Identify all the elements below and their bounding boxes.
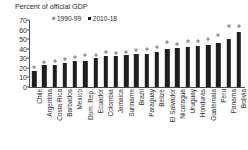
chart-column xyxy=(234,20,244,87)
point-1990-99 xyxy=(83,53,88,58)
chart-column xyxy=(152,20,162,87)
bar-2010-18 xyxy=(124,55,128,87)
x-axis-category-label: Jamaica xyxy=(118,89,125,113)
x-axis-category-label: El Salvador xyxy=(170,89,177,122)
chart-column xyxy=(60,20,70,87)
chart-column xyxy=(224,20,234,87)
bar-2010-18 xyxy=(206,45,210,87)
bar-2010-18 xyxy=(83,61,87,87)
plot-area: 010203040506070 xyxy=(29,20,244,87)
chart-column xyxy=(213,20,223,87)
chart-axis-title: Percent of official GDP xyxy=(15,2,88,11)
chart-column xyxy=(49,20,59,87)
x-axis-category-label: Ecuador xyxy=(98,89,105,113)
chart-column xyxy=(203,20,213,87)
bar-2010-18 xyxy=(114,56,118,87)
x-axis-category-label: Argentina xyxy=(47,89,54,117)
x-axis-category-label: Uruguay xyxy=(190,89,197,114)
x-axis-category-label: Colombia xyxy=(108,89,115,116)
x-axis-category-label: Chile xyxy=(37,89,44,104)
point-1990-99 xyxy=(104,50,109,55)
x-axis-category-label: Suriname xyxy=(129,89,136,117)
x-axis-category-label: Panama xyxy=(231,89,238,113)
x-axis-category-label: Mexico xyxy=(77,89,84,110)
bar-2010-18 xyxy=(134,54,138,87)
point-1990-99 xyxy=(114,51,119,56)
point-1990-99 xyxy=(63,57,68,62)
chart-column xyxy=(39,20,49,87)
point-1990-99 xyxy=(237,23,242,28)
point-1990-99 xyxy=(52,59,57,64)
point-1990-99 xyxy=(155,45,160,50)
x-axis-category-label: Bolivia xyxy=(241,89,248,108)
bar-2010-18 xyxy=(237,32,241,87)
x-axis-category-label: Brazil xyxy=(139,89,146,105)
chart-column xyxy=(70,20,80,87)
chart-column xyxy=(90,20,100,87)
bar-2010-18 xyxy=(52,65,56,87)
bar-2010-18 xyxy=(63,63,67,87)
chart-column xyxy=(183,20,193,87)
point-1990-99 xyxy=(134,48,139,53)
chart-column xyxy=(142,20,152,87)
bar-2010-18 xyxy=(155,52,159,87)
x-axis-category-label: Guatemala xyxy=(211,89,218,121)
point-1990-99 xyxy=(206,37,211,42)
x-axis-category-label: Barbados xyxy=(67,89,74,117)
bar-2010-18 xyxy=(145,54,149,88)
chart-column xyxy=(193,20,203,87)
bar-2010-18 xyxy=(165,49,169,87)
x-axis-category-label: Belize xyxy=(159,89,166,107)
bar-2010-18 xyxy=(42,65,46,87)
point-1990-99 xyxy=(226,23,231,28)
bar-2010-18 xyxy=(175,48,179,87)
x-axis-category-label: Dom. Rep. xyxy=(88,89,95,120)
x-axis-category-label: Paraguay xyxy=(149,89,156,117)
point-1990-99 xyxy=(185,39,190,44)
chart-column xyxy=(131,20,141,87)
chart-column xyxy=(121,20,131,87)
x-axis-category-label: Nicaragua xyxy=(180,89,187,119)
chart-column xyxy=(172,20,182,87)
bar-2010-18 xyxy=(73,61,77,87)
point-1990-99 xyxy=(196,39,201,44)
point-1990-99 xyxy=(175,42,180,47)
chart-column xyxy=(80,20,90,87)
x-axis-category-label: Peru xyxy=(221,89,228,103)
x-axis-category-label: Costa Rica xyxy=(57,89,64,121)
chart-column xyxy=(101,20,111,87)
bar-2010-18 xyxy=(196,46,200,87)
point-1990-99 xyxy=(165,40,170,45)
bar-2010-18 xyxy=(93,58,97,87)
point-1990-99 xyxy=(32,65,37,70)
chart-column xyxy=(162,20,172,87)
shadow-economy-chart: Percent of official GDP 1990-99 2010-18 … xyxy=(0,0,248,150)
chart-column xyxy=(111,20,121,87)
point-1990-99 xyxy=(124,50,129,55)
bar-2010-18 xyxy=(226,39,230,87)
chart-column xyxy=(29,20,39,87)
bar-2010-18 xyxy=(104,56,108,87)
point-1990-99 xyxy=(93,53,98,58)
bar-2010-18 xyxy=(216,43,220,87)
bar-2010-18 xyxy=(185,47,189,87)
point-1990-99 xyxy=(216,33,221,38)
point-1990-99 xyxy=(42,60,47,65)
point-1990-99 xyxy=(144,47,149,52)
x-axis-category-label: Honduras xyxy=(200,89,207,117)
bar-2010-18 xyxy=(32,71,36,87)
point-1990-99 xyxy=(73,55,78,60)
